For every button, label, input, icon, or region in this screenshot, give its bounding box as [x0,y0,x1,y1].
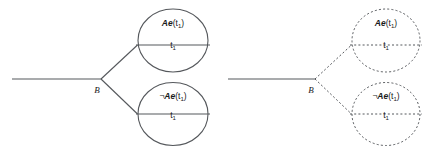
node-formula-dashed-lower: ¬Ae(t1) [372,91,399,102]
lower-branch-line-dashed [315,79,352,114]
branch-point-label-solid: B [94,85,100,95]
diagram-svg: B Ae(t1) t1 ¬Ae(t1) t1 B [0,0,432,153]
solid-branching-diagram: B Ae(t1) t1 ¬Ae(t1) t1 [12,9,210,146]
branch-point-label-dashed: B [308,85,314,95]
dashed-branching-diagram: B Ae(t1) t1 ¬Ae(t1) t1 [228,9,422,146]
upper-node-dashed: Ae(t1) t1 [350,9,422,72]
lower-node-dashed: ¬Ae(t1) t1 [350,83,422,146]
upper-branch-line-solid [101,45,138,79]
node-time-solid-lower: t1 [170,110,176,121]
node-formula-solid-upper: Ae(t1) [161,18,184,29]
node-time-dashed-lower: t1 [383,110,389,121]
node-formula-dashed-upper: Ae(t1) [374,18,397,29]
upper-branch-line-dashed [315,45,352,79]
node-time-dashed-upper: t1 [383,40,389,51]
figure-canvas: B Ae(t1) t1 ¬Ae(t1) t1 B [0,0,432,153]
node-time-solid-upper: t1 [170,40,176,51]
lower-branch-line-solid [101,79,138,114]
lower-node-solid: ¬Ae(t1) t1 [136,83,210,146]
node-formula-solid-lower: ¬Ae(t1) [159,91,186,102]
upper-node-solid: Ae(t1) t1 [136,9,210,72]
